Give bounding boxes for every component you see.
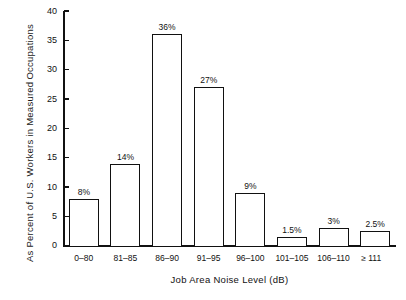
bar[interactable] xyxy=(277,237,307,246)
y-tick-label: 0 xyxy=(31,241,57,250)
y-tick-mark xyxy=(64,40,69,41)
bar[interactable] xyxy=(194,87,224,245)
bar[interactable] xyxy=(319,228,349,246)
x-category-label: ≥ 111 xyxy=(343,254,399,263)
y-tick-label: 5 xyxy=(31,212,57,221)
y-axis-line xyxy=(63,11,65,246)
bar-value-label: 2.5% xyxy=(350,220,400,229)
bar-value-label: 36% xyxy=(142,23,192,32)
x-axis-title: Job Area Noise Level (dB) xyxy=(63,274,396,285)
y-tick-label: 15 xyxy=(31,153,57,162)
bar[interactable] xyxy=(110,164,140,246)
y-tick-label: 35 xyxy=(31,36,57,45)
y-tick-label: 25 xyxy=(31,95,57,104)
y-tick-mark xyxy=(64,10,69,11)
bar[interactable] xyxy=(69,199,99,246)
bar-value-label: 9% xyxy=(225,182,275,191)
y-tick-label: 10 xyxy=(31,183,57,192)
bar-value-label: 14% xyxy=(100,153,150,162)
figure-caption xyxy=(2,292,402,300)
y-tick-label: 40 xyxy=(31,7,57,16)
bar[interactable] xyxy=(360,231,390,246)
y-tick-mark xyxy=(64,98,69,99)
y-tick-mark xyxy=(64,69,69,70)
y-tick-label: 20 xyxy=(31,124,57,133)
y-tick-label: 30 xyxy=(31,65,57,74)
bar-chart-figure: As Percent of U.S. Workers in Measured O… xyxy=(0,0,406,300)
bar[interactable] xyxy=(152,34,182,245)
bar[interactable] xyxy=(235,193,265,246)
y-tick-mark xyxy=(64,157,69,158)
bar-value-label: 1.5% xyxy=(267,226,317,235)
bar-value-label: 27% xyxy=(184,76,234,85)
y-axis-title-line-1: As Percent of U.S. Workers in Measured xyxy=(24,82,35,262)
bar-value-label: 8% xyxy=(59,188,109,197)
y-tick-mark xyxy=(64,128,69,129)
y-axis-title: As Percent of U.S. Workers in Measured O… xyxy=(14,18,44,268)
